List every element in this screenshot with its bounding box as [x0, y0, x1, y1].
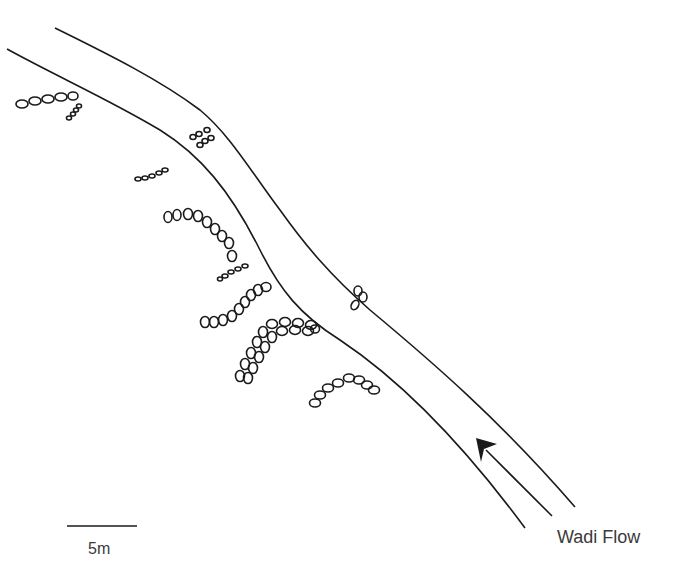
east-bank-line [55, 28, 575, 507]
stone-feature-6 [201, 283, 272, 328]
stone-feature-2 [190, 128, 214, 148]
stone-feature-7 [236, 318, 320, 384]
west-bank-line [7, 49, 525, 528]
stone-feature-4 [164, 209, 237, 262]
stone-feature-1 [16, 92, 82, 120]
stone-feature-9 [310, 374, 380, 407]
stone-feature-3 [135, 168, 168, 181]
scale-label: 5m [88, 540, 110, 558]
flow-label: Wadi Flow [557, 527, 640, 548]
wadi-diagram [0, 0, 677, 578]
flow-arrow-line [486, 450, 552, 516]
stone-feature-5 [218, 264, 249, 281]
